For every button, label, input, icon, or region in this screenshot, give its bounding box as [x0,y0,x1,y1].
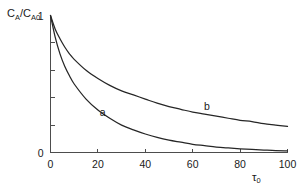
data-curves-group [51,16,288,151]
y-axis-label-c1: C [7,7,15,19]
axes-group [51,16,288,153]
x-axis-label: τ0 [252,172,261,185]
chart-canvas: 020406080100 01 ab [0,0,305,195]
y-axis-label-c2: C [23,7,31,19]
data-curve-b [51,16,288,127]
x-tick-label: 80 [234,158,246,170]
y-axis-tick-labels: 01 [38,10,44,159]
y-axis-label: CA/CA0 [7,8,40,21]
y-tick-label: 0 [38,147,44,159]
x-tick-label: 20 [92,158,104,170]
curve-label-b: b [204,100,210,112]
curve-label-a: a [100,106,106,118]
x-tick-label: 60 [187,158,199,170]
x-axis-tick-labels: 020406080100 [48,158,297,170]
x-tick-label: 40 [139,158,151,170]
x-tick-label: 100 [279,158,297,170]
y-axis-label-sub3: 0 [36,13,40,22]
x-axis-label-sub: 0 [257,176,261,185]
y-axis-ticks [51,43,55,125]
figure-container: 020406080100 01 ab CA/CA0 τ0 [0,0,305,195]
data-curve-a [51,16,288,151]
x-tick-label: 0 [48,158,54,170]
